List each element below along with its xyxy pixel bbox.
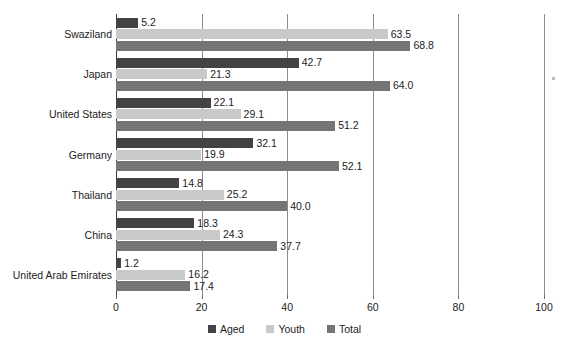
bar-value-label: 17.4 [190,281,213,291]
bar-value-label: 51.2 [335,120,358,130]
x-tick-label: 40 [281,301,293,313]
gridline [287,14,288,295]
bar-value-label: 25.2 [224,189,247,199]
legend-item-aged[interactable]: Aged [208,323,245,335]
gridline [544,14,545,295]
bar-aged-japan [116,58,299,68]
x-tick-label: 20 [196,301,208,313]
legend-item-youth[interactable]: Youth [266,323,304,335]
bar-value-label: 37.7 [277,241,300,251]
legend-label: Total [339,323,361,335]
gridline [373,14,374,295]
bar-value-label: 64.0 [390,80,413,90]
bar-value-label: 32.1 [253,138,276,148]
bar-aged-germany [116,138,253,148]
bar-value-label: 63.5 [388,29,411,39]
bar-value-label: 29.1 [241,109,264,119]
bar-youth-japan [116,69,207,79]
bar-value-label: 42.7 [299,57,322,67]
category-label: Thailand [0,189,116,201]
bar-youth-china [116,230,220,240]
bar-total-thailand [116,201,287,211]
category-label: United States [0,108,116,120]
bar-youth-swaziland [116,29,388,39]
legend-label: Aged [220,323,245,335]
category-label: Germany [0,149,116,161]
bar-total-swaziland [116,41,410,51]
bar-total-united-states [116,121,335,131]
legend-swatch-icon [266,325,274,333]
bar-total-china [116,241,277,251]
bar-aged-thailand [116,178,179,188]
bar-youth-united-states [116,109,241,119]
x-tick-mark [116,295,117,299]
bar-aged-swaziland [116,18,138,28]
bar-value-label: 22.1 [211,97,234,107]
bar-youth-united-arab-emirates [116,270,185,280]
legend-label: Youth [278,323,304,335]
bar-value-label: 16.2 [185,269,208,279]
x-tick-label: 0 [113,301,119,313]
x-tick-mark [373,295,374,299]
bar-total-united-arab-emirates [116,281,190,291]
bar-value-label: 19.9 [201,149,224,159]
category-label: Swaziland [0,28,116,40]
chart-legend: AgedYouthTotal [0,323,569,335]
x-tick-mark [287,295,288,299]
bar-value-label: 68.8 [410,40,433,50]
x-tick-label: 80 [453,301,465,313]
x-tick-label: 60 [367,301,379,313]
gridline [458,14,459,295]
legend-item-total[interactable]: Total [327,323,361,335]
category-label: United Arab Emirates [0,269,116,281]
x-tick-label: 100 [535,301,553,313]
bar-value-label: 18.3 [194,218,217,228]
bar-value-label: 1.2 [121,258,139,268]
bar-value-label: 5.2 [138,17,156,27]
category-label: Japan [0,68,116,80]
x-tick-mark [458,295,459,299]
bar-value-label: 14.8 [179,178,202,188]
bar-value-label: 21.3 [207,69,230,79]
x-tick-mark [544,295,545,299]
bar-total-germany [116,161,339,171]
bar-youth-thailand [116,190,224,200]
legend-swatch-icon [327,325,335,333]
x-tick-mark [202,295,203,299]
bar-aged-united-states [116,98,211,108]
bar-total-japan [116,81,390,91]
scan-artifact [552,77,555,80]
category-label: China [0,229,116,241]
bar-youth-germany [116,150,201,160]
bar-chart: Swaziland5.263.568.8Japan42.721.364.0Uni… [0,0,569,348]
bar-aged-china [116,218,194,228]
bar-value-label: 40.0 [287,201,310,211]
bar-value-label: 24.3 [220,229,243,239]
legend-swatch-icon [208,325,216,333]
bar-value-label: 52.1 [339,161,362,171]
